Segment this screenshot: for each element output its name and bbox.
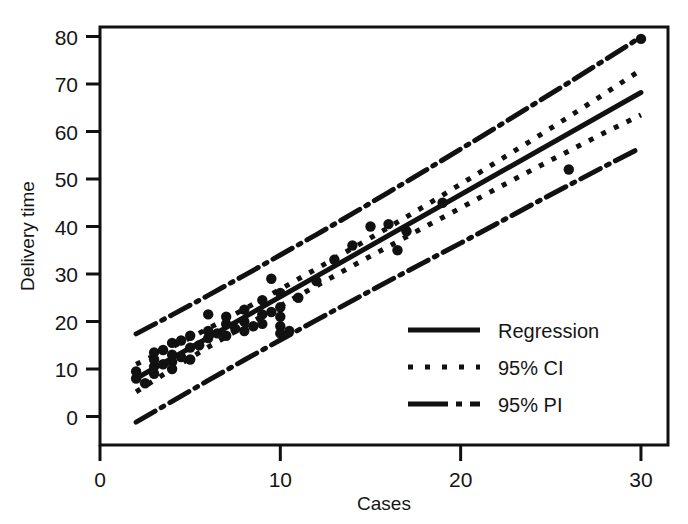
legend-label: 95% PI <box>498 394 562 416</box>
data-point <box>221 331 231 341</box>
y-tick-label: 40 <box>55 216 78 239</box>
data-point <box>176 352 186 362</box>
data-point <box>275 302 285 312</box>
data-point <box>383 219 393 229</box>
y-tick-label: 70 <box>55 73 78 96</box>
data-point <box>203 326 213 336</box>
data-point <box>365 221 375 231</box>
data-point <box>158 359 168 369</box>
data-point <box>284 326 294 336</box>
data-point <box>392 245 402 255</box>
data-point <box>185 342 195 352</box>
data-point <box>248 321 258 331</box>
data-point <box>266 307 276 317</box>
delivery-time-vs-cases-chart: 01020304050607080 0102030 Delivery time … <box>0 0 688 524</box>
data-point <box>275 288 285 298</box>
data-point <box>564 164 574 174</box>
y-tick-label: 30 <box>55 263 78 286</box>
data-point <box>293 293 303 303</box>
data-point <box>140 378 150 388</box>
data-point <box>437 198 447 208</box>
data-point <box>158 345 168 355</box>
data-point <box>275 328 285 338</box>
data-point <box>185 354 195 364</box>
data-point <box>230 323 240 333</box>
y-tick-label: 0 <box>66 406 78 429</box>
y-axis-title: Delivery time <box>17 181 38 291</box>
data-point <box>401 226 411 236</box>
x-axis-title: Cases <box>357 493 411 514</box>
data-point <box>167 364 177 374</box>
legend-label: 95% CI <box>498 357 564 379</box>
chart-figure: 01020304050607080 0102030 Delivery time … <box>0 0 688 524</box>
data-point <box>131 366 141 376</box>
data-point <box>203 309 213 319</box>
data-point <box>239 304 249 314</box>
data-point <box>257 309 267 319</box>
legend-label: Regression <box>498 320 599 342</box>
data-point <box>347 240 357 250</box>
x-tick-label: 20 <box>449 468 472 491</box>
y-tick-label: 50 <box>55 168 78 191</box>
data-point <box>311 276 321 286</box>
data-point <box>176 335 186 345</box>
y-tick-label: 10 <box>55 358 78 381</box>
data-point <box>257 295 267 305</box>
data-point <box>149 369 159 379</box>
data-point <box>167 338 177 348</box>
y-tick-label: 80 <box>55 26 78 49</box>
data-point <box>167 350 177 360</box>
x-tick-label: 30 <box>629 468 652 491</box>
data-point <box>212 328 222 338</box>
data-point <box>266 274 276 284</box>
data-point <box>329 255 339 265</box>
x-tick-label: 10 <box>269 468 292 491</box>
data-point <box>221 312 231 322</box>
data-point <box>239 316 249 326</box>
data-point <box>636 34 646 44</box>
data-point <box>194 340 204 350</box>
data-point <box>149 347 159 357</box>
data-point <box>239 326 249 336</box>
data-point <box>185 331 195 341</box>
x-tick-label: 0 <box>94 468 106 491</box>
y-tick-label: 60 <box>55 121 78 144</box>
data-point <box>257 319 267 329</box>
y-tick-label: 20 <box>55 311 78 334</box>
data-point <box>275 312 285 322</box>
